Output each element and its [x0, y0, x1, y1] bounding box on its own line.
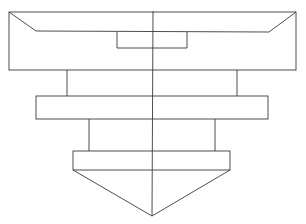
- diagram-canvas: [0, 0, 306, 224]
- top-notch: [117, 32, 187, 49]
- cone-tip: [73, 170, 230, 216]
- centerline: [152, 11, 153, 216]
- bottom-block: [73, 151, 230, 170]
- middle-block: [36, 96, 268, 119]
